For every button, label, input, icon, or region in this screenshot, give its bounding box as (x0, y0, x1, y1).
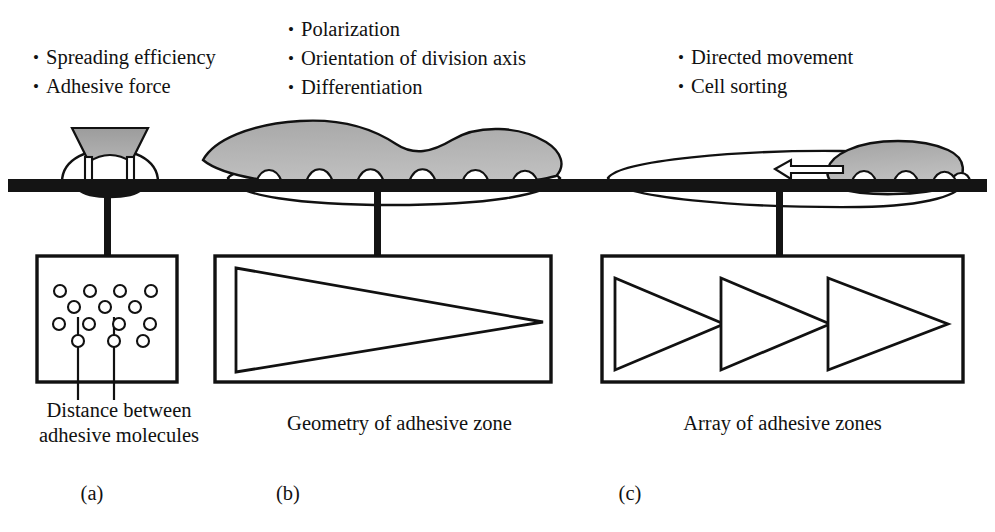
cell-illustration-migrating (608, 141, 970, 207)
caption-a: Distance between adhesive molecules (0, 398, 238, 448)
adhesive-molecule (113, 318, 125, 330)
schematic-box-b (215, 256, 551, 382)
attachment-foot (85, 157, 92, 182)
caption-line: Geometry of adhesive zone (222, 411, 577, 436)
adhesive-molecule (53, 318, 65, 330)
panel-label-b: (b) (258, 482, 318, 505)
adhesive-molecule (54, 285, 66, 297)
schematic-box-c (602, 256, 963, 382)
diagram-canvas (0, 0, 995, 532)
caption-line: adhesive molecules (0, 423, 238, 448)
adhesive-molecule (145, 285, 157, 297)
schematic-box-a (37, 256, 177, 400)
cell-illustration-spread (203, 121, 561, 205)
panel-label-c: (c) (600, 482, 660, 505)
adhesive-molecule-labeled (72, 335, 84, 347)
caption-c: Array of adhesive zones (600, 411, 965, 436)
adhesive-molecule (84, 285, 96, 297)
adhesive-molecule (114, 285, 126, 297)
connector-stem-b (374, 192, 381, 256)
substrate-bar (8, 179, 987, 192)
caption-line: Distance between (0, 398, 238, 423)
connector-stem-c (776, 192, 783, 256)
figure-root: •Spreading efficiency •Adhesive force •P… (0, 0, 995, 532)
attachment-foot (127, 157, 134, 182)
adhesive-molecule (83, 318, 95, 330)
caption-b: Geometry of adhesive zone (222, 411, 577, 436)
adhesive-molecule (68, 301, 80, 313)
adhesive-molecule (137, 335, 149, 347)
adhesive-molecule (99, 301, 111, 313)
adhesive-molecule-labeled (108, 335, 120, 347)
adhesive-molecule (144, 318, 156, 330)
adhesive-molecule (129, 301, 141, 313)
panel-label-a: (a) (62, 482, 122, 505)
caption-line: Array of adhesive zones (600, 411, 965, 436)
connector-stem-a (104, 192, 111, 256)
